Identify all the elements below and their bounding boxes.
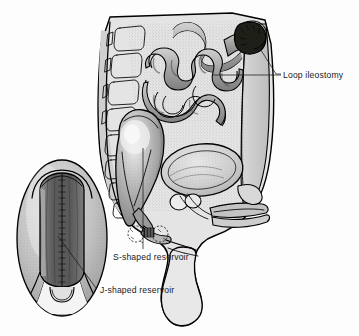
label-text-loop-ileostomy: Loop ileostomy (283, 70, 344, 80)
main-sagittal-view (98, 13, 273, 326)
label-text-s-shaped-reservoir: S-shaped reservoir (113, 252, 189, 262)
anatomy-diagram-svg: Loop ileostomy S-shaped reservoir J-shap… (0, 0, 359, 336)
label-text-j-shaped-reservoir: J-shaped reservoir (100, 285, 174, 295)
medical-illustration-figure: Loop ileostomy S-shaped reservoir J-shap… (0, 0, 359, 336)
j-pouch-inset (17, 160, 107, 316)
